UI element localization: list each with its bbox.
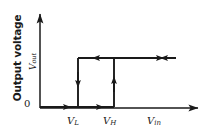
- y-axis-title: Output voltage: [11, 10, 23, 106]
- x-tick-label-vl: VL: [67, 115, 79, 127]
- y-tick-vout-main: V: [28, 64, 38, 71]
- x-axis-vin-subscript: in: [154, 119, 161, 127]
- x-axis-label-vin: Vin: [147, 115, 161, 127]
- origin-zero-label: 0: [24, 98, 30, 109]
- x-tick-label-vh: VH: [103, 115, 116, 127]
- y-tick-label-vout: Vout: [28, 40, 39, 82]
- x-tick-vl-subscript: L: [74, 119, 79, 127]
- x-tick-vh-subscript: H: [110, 119, 116, 127]
- hysteresis-transfer-characteristic-figure: Output voltage Vout 0 VL VH Vin: [0, 0, 213, 137]
- y-tick-vout-subscript: out: [30, 53, 38, 64]
